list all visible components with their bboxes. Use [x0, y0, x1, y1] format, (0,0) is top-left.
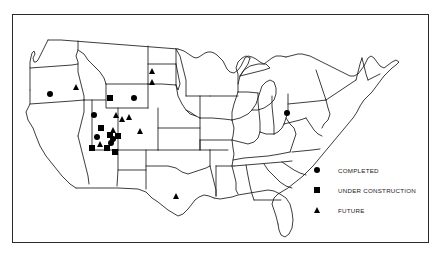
map-marker-circle: [284, 110, 290, 116]
legend-item-under-construction: UNDER CONSTRUCTION: [314, 180, 422, 200]
filled-square-icon: [314, 187, 330, 193]
legend-label-under-construction: UNDER CONSTRUCTION: [330, 187, 416, 194]
map-marker-triangle: [73, 84, 79, 90]
map-marker-triangle: [137, 128, 143, 134]
map-marker-circle: [91, 112, 97, 118]
map-marker-triangle: [149, 68, 155, 74]
map-marker-circle: [47, 91, 53, 97]
map-marker-circle: [94, 134, 100, 140]
filled-circle-icon: [314, 167, 330, 173]
legend-label-completed: COMPLETED: [330, 167, 379, 174]
filled-triangle-icon: [314, 207, 330, 213]
legend-label-future: FUTURE: [330, 207, 365, 214]
legend-item-future: FUTURE: [314, 200, 422, 220]
legend: COMPLETED UNDER CONSTRUCTION FUTURE: [314, 160, 422, 220]
map-figure: COMPLETED UNDER CONSTRUCTION FUTURE: [0, 0, 441, 258]
map-marker-square: [107, 95, 113, 101]
map-marker-circle: [131, 95, 137, 101]
map-marker-square: [89, 145, 95, 151]
map-marker-square: [115, 133, 121, 139]
map-marker-square: [112, 149, 118, 155]
map-marker-triangle: [126, 114, 132, 120]
map-marker-square: [104, 145, 110, 151]
map-marker-triangle: [149, 79, 155, 85]
map-marker-square: [98, 125, 104, 131]
map-marker-triangle: [119, 116, 125, 122]
legend-item-completed: COMPLETED: [314, 160, 422, 180]
map-marker-triangle: [173, 193, 179, 199]
map-marker-triangle: [97, 141, 103, 147]
